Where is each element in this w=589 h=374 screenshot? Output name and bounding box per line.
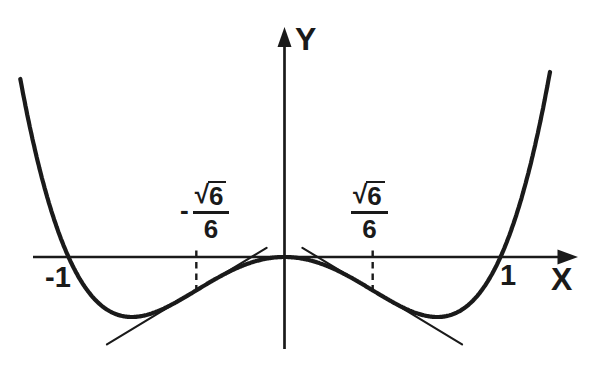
function-plot-figure: Y X -1 1 - √6 6 √6 6 xyxy=(0,0,589,374)
fraction-denominator: 6 xyxy=(362,214,376,243)
radical-icon: √ xyxy=(195,181,209,207)
inflection-label-left: - √6 6 xyxy=(180,181,229,243)
x-tick-label-pos1: 1 xyxy=(500,261,516,290)
fraction-sqrt6-over-6-right: √6 6 xyxy=(351,181,388,243)
fraction-sqrt6-over-6-left: √6 6 xyxy=(193,181,230,243)
radicand: 6 xyxy=(366,181,384,209)
minus-sign: - xyxy=(180,197,189,224)
inflection-label-right: √6 6 xyxy=(351,181,388,243)
y-axis-arrow-icon xyxy=(278,27,292,47)
x-axis-label: X xyxy=(551,263,572,295)
fraction-numerator: √6 xyxy=(351,181,388,214)
radicand: 6 xyxy=(208,181,226,209)
fraction-denominator: 6 xyxy=(204,214,218,243)
radical-icon: √ xyxy=(353,181,367,207)
fraction-numerator: √6 xyxy=(193,181,230,214)
y-axis-label: Y xyxy=(295,23,316,55)
x-tick-label-neg1: -1 xyxy=(45,263,71,292)
